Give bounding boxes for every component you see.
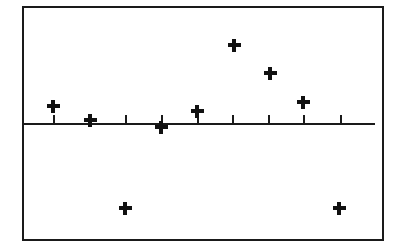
chart-title xyxy=(0,0,1,1)
plot-area xyxy=(24,8,382,239)
x-axis-tick xyxy=(340,115,342,123)
data-point-marker xyxy=(155,121,168,134)
x-axis-tick xyxy=(53,115,55,123)
x-axis-tick xyxy=(125,115,127,123)
x-axis-tick xyxy=(232,115,234,123)
data-point-marker xyxy=(264,67,277,80)
data-point-marker xyxy=(191,105,204,118)
data-point-marker xyxy=(297,96,310,109)
data-point-marker xyxy=(47,100,60,113)
plot-frame xyxy=(22,6,384,241)
data-point-marker xyxy=(84,114,97,127)
y-axis-label xyxy=(0,0,1,1)
data-point-marker xyxy=(333,202,346,215)
x-axis-tick xyxy=(268,115,270,123)
scatter-plot-figure xyxy=(0,0,403,248)
x-axis-label xyxy=(0,0,1,1)
data-point-marker xyxy=(228,39,241,52)
zero-axis-line xyxy=(24,123,375,125)
data-point-marker xyxy=(119,202,132,215)
x-axis-tick xyxy=(303,115,305,123)
